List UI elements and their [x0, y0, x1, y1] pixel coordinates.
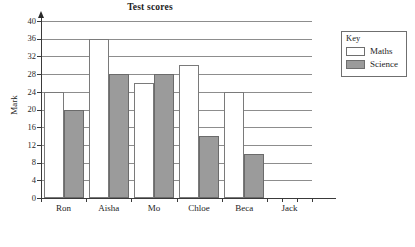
white-swatch-icon: [346, 47, 365, 56]
bar-mo-maths: [134, 83, 154, 198]
bar-aisha-science: [109, 74, 129, 198]
x-tick-mark: [131, 198, 132, 202]
gridline: [41, 21, 312, 22]
y-tick-label: 8: [12, 158, 36, 167]
x-tick-mark: [267, 198, 268, 202]
gridline: [41, 39, 312, 40]
plot-area: [41, 21, 312, 198]
x-category-label-beca: Beca: [222, 203, 267, 213]
x-tick-mark: [312, 198, 313, 202]
y-axis-line: [41, 16, 42, 198]
bar-chloe-science: [199, 136, 219, 198]
legend-label-maths: Maths: [370, 46, 393, 56]
gray-swatch-icon: [346, 60, 365, 69]
x-tick-mark: [222, 198, 223, 202]
x-category-label-chloe: Chloe: [177, 203, 222, 213]
bar-mo-science: [154, 74, 174, 198]
y-tick-label: 36: [12, 34, 36, 43]
x-category-label-aisha: Aisha: [86, 203, 131, 213]
y-tick-mark: [37, 21, 42, 22]
bar-chloe-maths: [179, 65, 199, 198]
bar-ron-science: [64, 110, 84, 199]
y-tick-label: 20: [12, 105, 36, 114]
y-tick-label: 12: [12, 141, 36, 150]
y-tick-label: 24: [12, 88, 36, 97]
gridline: [41, 74, 312, 75]
x-tick-mark: [282, 198, 283, 202]
y-tick-label: 28: [12, 70, 36, 79]
y-tick-mark: [37, 110, 42, 111]
y-tick-mark: [37, 145, 42, 146]
x-category-label-ron: Ron: [41, 203, 86, 213]
legend-key-box: Key Maths Science: [341, 31, 407, 77]
bar-ron-maths: [44, 92, 64, 198]
bar-chart-figure: Test scores Mark 0481216202428323640 Ron…: [0, 0, 415, 247]
y-tick-mark: [37, 163, 42, 164]
y-tick-mark: [37, 198, 42, 199]
y-axis-tick-labels: 0481216202428323640: [8, 0, 36, 247]
y-tick-label: 4: [12, 176, 36, 185]
y-tick-mark: [37, 180, 42, 181]
bar-beca-science: [244, 154, 264, 198]
legend-label-science: Science: [370, 59, 398, 69]
x-tick-mark: [86, 198, 87, 202]
legend-title: Key: [346, 33, 360, 43]
gridline: [41, 56, 312, 57]
y-tick-mark: [37, 92, 42, 93]
y-tick-label: 32: [12, 52, 36, 61]
x-tick-mark: [177, 198, 178, 202]
y-tick-mark: [37, 74, 42, 75]
bar-beca-maths: [224, 92, 244, 198]
chart-title: Test scores: [0, 2, 300, 12]
y-tick-mark: [37, 39, 42, 40]
y-tick-label: 16: [12, 123, 36, 132]
gridline: [41, 92, 312, 93]
y-tick-mark: [37, 56, 42, 57]
x-tick-mark: [297, 198, 298, 202]
y-axis-arrow-icon: [38, 11, 44, 18]
y-tick-label: 0: [12, 194, 36, 203]
x-category-label-mo: Mo: [131, 203, 176, 213]
y-tick-label: 40: [12, 17, 36, 26]
x-category-label-jack: Jack: [267, 203, 312, 213]
y-tick-mark: [37, 127, 42, 128]
bar-aisha-maths: [89, 39, 109, 198]
